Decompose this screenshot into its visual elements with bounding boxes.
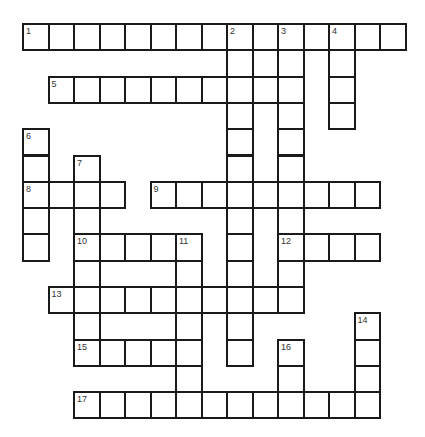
crossword-cell[interactable] xyxy=(175,339,203,367)
crossword-cell[interactable] xyxy=(277,102,305,130)
crossword-cell[interactable] xyxy=(328,391,356,419)
crossword-cell[interactable] xyxy=(354,365,382,393)
crossword-cell[interactable] xyxy=(354,233,382,261)
crossword-cell[interactable] xyxy=(277,49,305,77)
crossword-cell[interactable] xyxy=(150,23,178,51)
crossword-cell[interactable] xyxy=(354,391,382,419)
crossword-cell[interactable] xyxy=(226,286,254,314)
crossword-cell[interactable] xyxy=(252,23,280,51)
crossword-cell[interactable]: 7 xyxy=(73,155,101,183)
crossword-cell[interactable] xyxy=(124,23,152,51)
crossword-cell[interactable] xyxy=(328,233,356,261)
crossword-cell[interactable]: 9 xyxy=(150,181,178,209)
crossword-cell[interactable]: 10 xyxy=(73,233,101,261)
crossword-cell[interactable] xyxy=(354,181,382,209)
crossword-cell[interactable] xyxy=(99,391,127,419)
crossword-cell[interactable] xyxy=(328,102,356,130)
crossword-cell[interactable] xyxy=(226,339,254,367)
crossword-cell[interactable] xyxy=(175,391,203,419)
crossword-cell[interactable]: 13 xyxy=(48,286,76,314)
crossword-cell[interactable] xyxy=(226,312,254,340)
crossword-cell[interactable] xyxy=(277,365,305,393)
crossword-cell[interactable] xyxy=(175,23,203,51)
crossword-cell[interactable] xyxy=(201,181,229,209)
crossword-cell[interactable] xyxy=(226,207,254,235)
crossword-cell[interactable]: 4 xyxy=(328,23,356,51)
crossword-cell[interactable] xyxy=(328,49,356,77)
crossword-cell[interactable] xyxy=(150,76,178,104)
crossword-cell[interactable]: 16 xyxy=(277,339,305,367)
crossword-cell[interactable] xyxy=(226,260,254,288)
crossword-cell[interactable] xyxy=(73,286,101,314)
crossword-cell[interactable] xyxy=(354,23,382,51)
crossword-cell[interactable] xyxy=(277,155,305,183)
crossword-cell[interactable] xyxy=(226,155,254,183)
crossword-cell[interactable] xyxy=(48,181,76,209)
crossword-cell[interactable] xyxy=(303,391,331,419)
crossword-cell[interactable] xyxy=(379,23,407,51)
crossword-cell[interactable] xyxy=(277,286,305,314)
crossword-cell[interactable] xyxy=(99,233,127,261)
crossword-cell[interactable] xyxy=(201,286,229,314)
crossword-cell[interactable] xyxy=(73,260,101,288)
crossword-cell[interactable] xyxy=(277,128,305,156)
crossword-cell[interactable] xyxy=(328,76,356,104)
crossword-cell[interactable] xyxy=(124,76,152,104)
crossword-cell[interactable] xyxy=(303,233,331,261)
crossword-cell[interactable] xyxy=(201,23,229,51)
crossword-cell[interactable] xyxy=(48,23,76,51)
crossword-cell[interactable] xyxy=(150,233,178,261)
crossword-cell[interactable] xyxy=(22,155,50,183)
crossword-cell[interactable] xyxy=(124,339,152,367)
crossword-cell[interactable] xyxy=(124,286,152,314)
crossword-cell[interactable] xyxy=(277,207,305,235)
crossword-cell[interactable] xyxy=(150,391,178,419)
crossword-cell[interactable] xyxy=(99,339,127,367)
crossword-cell[interactable] xyxy=(73,76,101,104)
crossword-cell[interactable] xyxy=(124,391,152,419)
crossword-cell[interactable] xyxy=(303,23,331,51)
crossword-cell[interactable] xyxy=(354,339,382,367)
crossword-cell[interactable] xyxy=(252,286,280,314)
crossword-cell[interactable] xyxy=(277,181,305,209)
crossword-cell[interactable] xyxy=(175,76,203,104)
crossword-cell[interactable]: 2 xyxy=(226,23,254,51)
crossword-cell[interactable]: 17 xyxy=(73,391,101,419)
crossword-cell[interactable] xyxy=(252,76,280,104)
crossword-cell[interactable] xyxy=(73,181,101,209)
crossword-cell[interactable] xyxy=(226,102,254,130)
crossword-cell[interactable] xyxy=(277,260,305,288)
crossword-cell[interactable] xyxy=(226,76,254,104)
crossword-cell[interactable]: 14 xyxy=(354,312,382,340)
crossword-cell[interactable] xyxy=(175,365,203,393)
crossword-cell[interactable] xyxy=(73,23,101,51)
crossword-cell[interactable] xyxy=(150,339,178,367)
crossword-cell[interactable]: 15 xyxy=(73,339,101,367)
crossword-cell[interactable]: 6 xyxy=(22,128,50,156)
crossword-cell[interactable] xyxy=(201,391,229,419)
crossword-cell[interactable] xyxy=(328,181,356,209)
crossword-cell[interactable] xyxy=(99,286,127,314)
crossword-cell[interactable] xyxy=(99,23,127,51)
crossword-cell[interactable] xyxy=(124,233,152,261)
crossword-cell[interactable] xyxy=(252,181,280,209)
crossword-cell[interactable] xyxy=(73,312,101,340)
crossword-cell[interactable] xyxy=(150,286,178,314)
crossword-cell[interactable] xyxy=(73,207,101,235)
crossword-cell[interactable] xyxy=(226,181,254,209)
crossword-cell[interactable] xyxy=(99,181,127,209)
crossword-cell[interactable] xyxy=(175,181,203,209)
crossword-cell[interactable] xyxy=(277,391,305,419)
crossword-cell[interactable] xyxy=(175,260,203,288)
crossword-cell[interactable] xyxy=(303,181,331,209)
crossword-cell[interactable]: 11 xyxy=(175,233,203,261)
crossword-cell[interactable]: 5 xyxy=(48,76,76,104)
crossword-cell[interactable]: 12 xyxy=(277,233,305,261)
crossword-cell[interactable] xyxy=(175,312,203,340)
crossword-cell[interactable] xyxy=(252,391,280,419)
crossword-cell[interactable] xyxy=(226,128,254,156)
crossword-cell[interactable] xyxy=(226,391,254,419)
crossword-cell[interactable] xyxy=(99,76,127,104)
crossword-cell[interactable]: 1 xyxy=(22,23,50,51)
crossword-cell[interactable] xyxy=(226,49,254,77)
